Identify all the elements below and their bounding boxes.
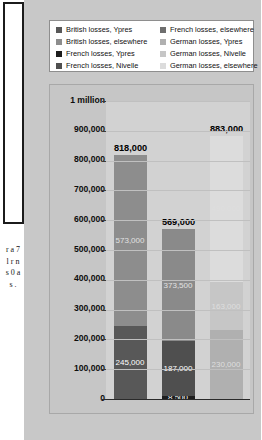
grid-line: [106, 339, 250, 340]
legend-item-label: German losses, Nivelle: [170, 48, 246, 59]
stacked-bar[interactable]: 245,000573,000818,000: [114, 155, 147, 399]
legend-swatch-icon: [56, 51, 62, 57]
legend-swatch-icon: [56, 39, 62, 45]
legend-swatch-icon: [160, 51, 166, 57]
page-edge-artifact: r a 7 l r n s 0 a s .: [0, 0, 24, 440]
legend-item[interactable]: British losses, Ypres: [56, 24, 156, 36]
y-axis-tick-label: 100,000: [74, 363, 105, 373]
stacked-bar[interactable]: 8,500187,000373,500569,000: [162, 229, 195, 399]
grid-line: [106, 250, 250, 251]
grid-line: [106, 280, 250, 281]
bar-total-label: 818,000: [96, 143, 166, 153]
chart-figure: British losses, YpresBritish losses, els…: [24, 0, 261, 440]
y-axis-tick-label: 600,000: [74, 214, 105, 224]
bar-segment[interactable]: 373,500: [162, 229, 195, 340]
y-axis-tick-label: 300,000: [74, 303, 105, 313]
legend-item[interactable]: British losses, elsewhere: [56, 36, 156, 48]
bar-total-label: 569,000: [144, 217, 214, 227]
legend-swatch-icon: [160, 39, 166, 45]
legend-item-label: British losses, elsewhere: [66, 36, 147, 47]
y-axis-tick-label: 200,000: [74, 333, 105, 343]
y-axis-tick-label: 0: [100, 393, 105, 403]
legend-item-label: French losses, elsewhere: [170, 24, 254, 35]
legend-item-label: French losses, Nivelle: [66, 60, 138, 71]
bar-segment[interactable]: 230,000: [210, 330, 243, 399]
legend-item[interactable]: French losses, elsewhere: [160, 24, 256, 36]
legend-item-label: British losses, Ypres: [66, 24, 132, 35]
legend-column-left: British losses, YpresBritish losses, els…: [56, 24, 156, 72]
grid-line: [106, 161, 250, 162]
y-axis-tick-label: 900,000: [74, 124, 105, 134]
bar-segment-label: 245,000: [116, 358, 145, 367]
bar-segment-label: 230,000: [212, 360, 241, 369]
legend-item-label: German losses, Ypres: [170, 36, 242, 47]
legend-swatch-icon: [56, 27, 62, 33]
grid-line: [106, 190, 250, 191]
legend-item[interactable]: German losses, Nivelle: [160, 48, 256, 60]
y-axis-tick-label: 500,000: [74, 244, 105, 254]
legend-swatch-icon: [160, 27, 166, 33]
chart-legend: British losses, YpresBritish losses, els…: [49, 20, 254, 72]
plot-frame: 1 million900,000800,000700,000600,000500…: [49, 84, 254, 414]
y-axis-tick-label: 1 million: [70, 95, 105, 105]
grid-line: [106, 131, 250, 132]
legend-column-right: French losses, elsewhereGerman losses, Y…: [160, 24, 256, 72]
bar-segment-label: 373,500: [164, 281, 193, 290]
legend-item[interactable]: German losses, elsewhere: [160, 60, 256, 72]
grid-line: [106, 310, 250, 311]
y-axis-tick-label: 800,000: [74, 154, 105, 164]
grid-line: [106, 101, 250, 102]
stacked-bar[interactable]: 230,000163,000490,000883,000: [210, 136, 243, 399]
legend-swatch-icon: [56, 63, 62, 69]
y-axis-tick-label: 700,000: [74, 184, 105, 194]
bar-segment[interactable]: 490,000: [210, 136, 243, 282]
y-axis-tick-label: 400,000: [74, 273, 105, 283]
legend-item[interactable]: French losses, Nivelle: [56, 60, 156, 72]
legend-item[interactable]: German losses, Ypres: [160, 36, 256, 48]
bar-segment-label: 573,000: [116, 236, 145, 245]
bar-segment-label: 490,000: [212, 204, 241, 213]
bar-segment[interactable]: 573,000: [114, 155, 147, 326]
legend-item[interactable]: French losses, Ypres: [56, 48, 156, 60]
bar-total-label: 883,000: [192, 124, 262, 134]
bar-segment[interactable]: 245,000: [114, 326, 147, 399]
legend-item-label: French losses, Ypres: [66, 48, 135, 59]
bar-segment[interactable]: 163,000: [210, 282, 243, 331]
legend-swatch-icon: [160, 63, 166, 69]
grid-line: [106, 220, 250, 221]
grid-line: [106, 369, 250, 370]
page-edge-text: r a 7 l r n s 0 a s .: [5, 244, 21, 290]
legend-item-label: German losses, elsewhere: [170, 60, 258, 71]
x-axis-baseline: [102, 399, 250, 400]
page-edge-box: [3, 2, 24, 224]
